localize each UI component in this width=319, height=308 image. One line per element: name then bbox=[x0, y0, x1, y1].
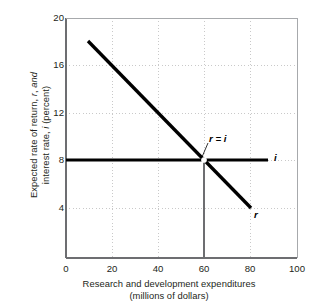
x-axis-title: Research and development expenditures (m… bbox=[40, 278, 298, 302]
annotation-r-label: r bbox=[254, 209, 258, 220]
annotation-leader-line bbox=[202, 143, 208, 157]
x-axis-title-line-2: (millions of dollars) bbox=[40, 290, 298, 302]
plot-area bbox=[0, 0, 319, 308]
intersection-marker bbox=[201, 157, 206, 162]
x-axis-title-line-1: Research and development expenditures bbox=[40, 278, 298, 290]
annotation-i-label: i bbox=[274, 152, 277, 163]
annotation-r-equals-i: r = i bbox=[209, 133, 226, 144]
chart-figure: Expected rate of return, r, and interest… bbox=[0, 0, 319, 308]
